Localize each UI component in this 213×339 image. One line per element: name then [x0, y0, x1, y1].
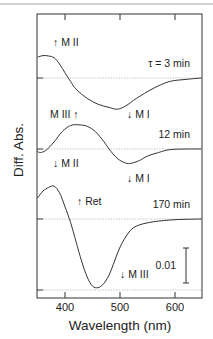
- annotation-miii-down: ↓ M III: [120, 268, 149, 280]
- x-tick-label-500: 500: [111, 301, 129, 313]
- annotation-mii-down: ↓ M II: [53, 157, 79, 169]
- spectra-chart: 400 500 600 Wavelength (nm) Diff. Abs. τ…: [0, 0, 213, 339]
- annotation-miii-up: M III ↑: [50, 108, 79, 120]
- trace1-time-label: τ = 3 min: [148, 57, 190, 69]
- y-axis-label: Diff. Abs.: [11, 123, 26, 177]
- annotation-mi-down-2: ↓ M I: [127, 172, 150, 184]
- x-tick-label-600: 600: [166, 301, 184, 313]
- trace2-time-label: 12 min: [158, 128, 190, 140]
- trace3-time-label: 170 min: [153, 198, 191, 210]
- scale-bar-label: 0.01: [156, 259, 177, 271]
- annotation-ret-up: ↑ Ret: [77, 195, 102, 207]
- x-tick-label-400: 400: [56, 301, 74, 313]
- annotation-mi-down-1: ↓ M I: [127, 108, 150, 120]
- x-axis-label: Wavelength (nm): [69, 318, 171, 333]
- annotation-mii-up: ↑ M II: [53, 36, 79, 48]
- scale-bar: [183, 248, 189, 283]
- spectra-curves: [38, 56, 202, 288]
